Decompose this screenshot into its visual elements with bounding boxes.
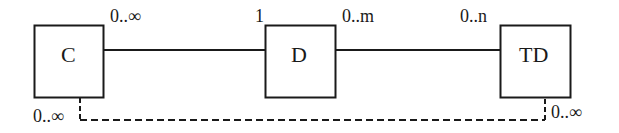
entity-label-d: D [291,44,307,66]
multiplicity-c-dashed: 0..∞ [33,107,64,125]
multiplicity-td-dashed: 0..∞ [551,103,582,121]
er-diagram: C D TD 0..∞ 1 0..m 0..n 0..∞ 0..∞ [0,0,619,133]
multiplicity-td-from-d: 0..n [460,7,487,25]
multiplicity-c-to-d: 0..∞ [110,7,141,25]
relationship-line-c-td-dashed [80,98,545,120]
multiplicity-d-to-td: 0..m [342,7,374,25]
multiplicity-d-from-c: 1 [255,7,264,25]
entity-label-c: C [61,44,76,66]
entity-label-td: TD [519,44,548,66]
